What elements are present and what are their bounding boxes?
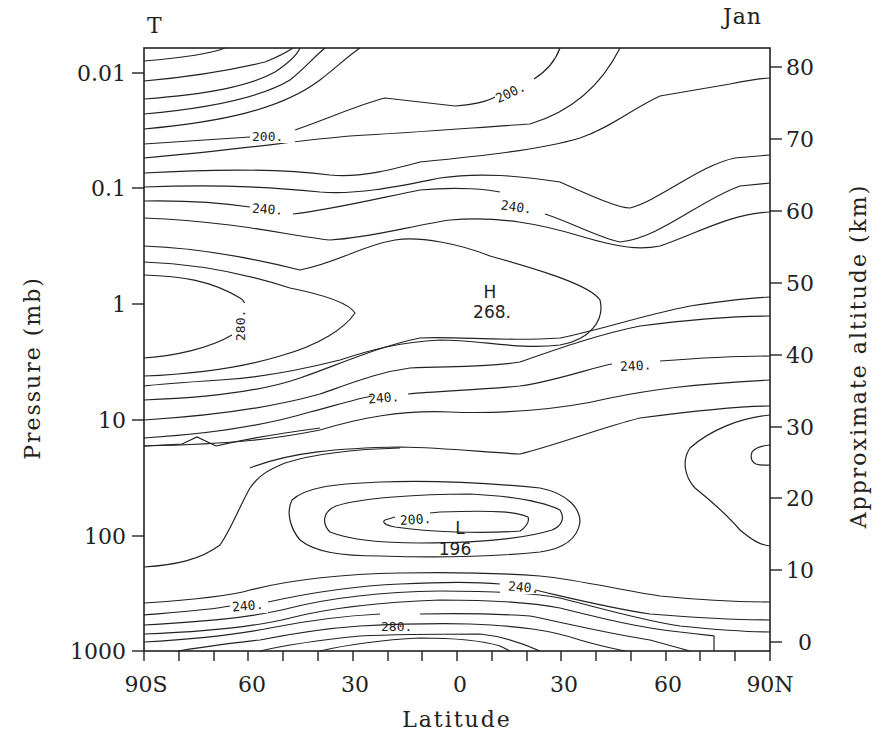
y-left-axis-title: Pressure (mb) — [20, 276, 45, 460]
y-left-tick-label: 0.01 — [77, 61, 126, 86]
x-tick-label: 60 — [238, 672, 266, 697]
x-tick-label: 0 — [453, 672, 467, 697]
y-right-axis-title: Approximate altitude (km) — [846, 184, 871, 530]
x-tick-label: 60 — [654, 672, 682, 697]
x-tick-labels: 90S 60 30 0 30 60 90N — [124, 672, 793, 697]
x-axis-ticks — [144, 651, 770, 661]
y-right-tick-label: 60 — [786, 199, 814, 224]
contour-label: 240. — [368, 389, 400, 406]
y-left-ticks — [132, 73, 144, 651]
contour-label: 240. — [507, 579, 540, 597]
contour-label: 200. — [399, 511, 431, 528]
y-right-tick-labels: 80 70 60 50 40 30 20 10 0 — [786, 55, 814, 655]
x-axis-title: Latitude — [402, 707, 512, 732]
y-left-tick-label: 10 — [98, 408, 126, 433]
low-value: 196 — [439, 539, 471, 559]
contour-label: 280. — [381, 619, 412, 634]
y-right-tick-label: 70 — [786, 127, 814, 152]
y-right-tick-label: 50 — [786, 271, 814, 296]
plot-frame — [144, 48, 770, 651]
x-tick-label: 90N — [746, 672, 793, 697]
x-tick-label: 30 — [341, 672, 369, 697]
contour-chart: 200. 200. 240. 240. 280. 240. 240. 200. … — [0, 0, 882, 741]
contour-label: 240. — [231, 597, 264, 615]
high-value: 268. — [473, 302, 511, 322]
month-label: Jan — [721, 4, 762, 29]
low-marker: L — [455, 518, 465, 538]
y-left-tick-label: 1 — [112, 292, 126, 317]
y-left-tick-label: 100 — [84, 524, 126, 549]
y-right-tick-label: 0 — [798, 630, 812, 655]
x-tick-label: 30 — [550, 672, 578, 697]
contour-label: 280. — [233, 310, 248, 341]
y-left-tick-labels: 0.01 0.1 1 10 100 1000 — [70, 61, 126, 664]
y-left-tick-label: 1000 — [70, 639, 126, 664]
y-right-tick-label: 40 — [786, 343, 814, 368]
contour-label: 240. — [251, 201, 283, 218]
high-marker: H — [484, 282, 497, 302]
y-right-tick-label: 10 — [786, 558, 814, 583]
contour-label: 200. — [252, 129, 283, 144]
y-right-tick-label: 80 — [786, 55, 814, 80]
contour-lines — [144, 48, 770, 651]
y-right-tick-label: 20 — [786, 486, 814, 511]
contour-label: 240. — [620, 357, 652, 374]
chart-title: T — [147, 13, 162, 38]
y-left-tick-label: 0.1 — [91, 176, 126, 201]
y-right-tick-label: 30 — [786, 415, 814, 440]
x-tick-label: 90S — [124, 672, 167, 697]
y-right-ticks — [770, 67, 782, 642]
extrema-markers: H 268. L 196 — [439, 282, 511, 559]
